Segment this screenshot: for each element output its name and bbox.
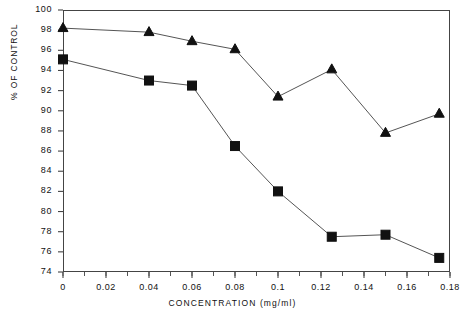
y-axis-tick-label: 82 xyxy=(12,185,52,195)
data-point-square xyxy=(327,232,336,241)
y-axis-tick-label: 86 xyxy=(12,145,52,155)
y-axis-tick-label: 100 xyxy=(12,4,52,14)
chart-figure: % OF CONTROL CONCENTRATION (mg/ml) 74767… xyxy=(0,0,465,319)
y-axis-tick-label: 96 xyxy=(12,44,52,54)
data-point-square xyxy=(274,187,283,196)
y-axis-tick-label: 74 xyxy=(12,266,52,276)
y-axis-tick-label: 84 xyxy=(12,165,52,175)
data-point-square xyxy=(59,55,68,64)
data-point-square xyxy=(188,81,197,90)
data-point-square xyxy=(231,142,240,151)
y-axis-tick-label: 76 xyxy=(12,246,52,256)
data-point-triangle xyxy=(327,64,337,73)
series-line-triangle xyxy=(63,28,439,133)
chart-canvas xyxy=(0,0,465,319)
data-point-square xyxy=(145,76,154,85)
y-axis-tick-label: 90 xyxy=(12,105,52,115)
y-axis-tick-label: 92 xyxy=(12,85,52,95)
series-line-square xyxy=(63,59,439,258)
y-axis-tick-label: 78 xyxy=(12,226,52,236)
data-point-triangle xyxy=(58,23,68,32)
data-point-triangle xyxy=(144,27,154,36)
y-axis-tick-label: 94 xyxy=(12,64,52,74)
data-point-square xyxy=(381,230,390,239)
y-axis-tick-label: 98 xyxy=(12,24,52,34)
y-axis-tick-label: 88 xyxy=(12,125,52,135)
y-axis-tick-label: 80 xyxy=(12,206,52,216)
data-point-square xyxy=(435,253,444,262)
data-point-triangle xyxy=(434,108,444,117)
x-axis-tick-label: 0.18 xyxy=(425,282,465,292)
